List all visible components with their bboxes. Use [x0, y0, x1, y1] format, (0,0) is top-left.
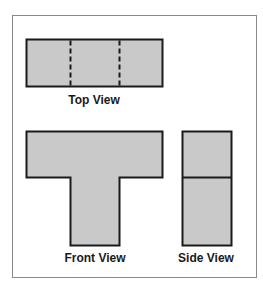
front-view-t-shape [27, 132, 163, 246]
front-view-label: Front View [64, 251, 126, 265]
projection-diagram: Top View Front View Side View [0, 0, 263, 286]
top-view-rect [27, 40, 163, 87]
top-view-label: Top View [68, 93, 120, 107]
front-view: Front View [27, 132, 163, 266]
side-view-label: Side View [178, 251, 234, 265]
top-view: Top View [27, 40, 163, 108]
side-view-rect [183, 132, 232, 246]
side-view: Side View [178, 132, 234, 266]
